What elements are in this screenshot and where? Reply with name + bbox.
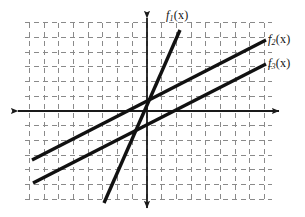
function-label-f2-arg: (x): [276, 32, 291, 46]
function-label-f2-base: f: [268, 32, 272, 46]
function-lines: [32, 30, 266, 203]
graph-canvas: [0, 0, 305, 217]
function-label-f3: f3(x): [268, 57, 290, 69]
function-label-f2: f2(x): [268, 33, 290, 45]
function-label-f2-sub: 2: [272, 38, 276, 47]
function-label-f1-arg: (x): [174, 8, 189, 22]
function-label-f1-sub: 1: [170, 14, 174, 23]
axes: [18, 18, 279, 208]
function-line-2: [32, 40, 266, 160]
function-label-f3-base: f: [268, 56, 272, 70]
function-label-f1: f1(x): [166, 9, 188, 21]
function-label-f3-arg: (x): [276, 56, 291, 70]
linear-functions-figure: f1(x) f2(x) f3(x): [0, 0, 305, 217]
function-label-f3-sub: 3: [272, 62, 276, 71]
function-label-f1-base: f: [166, 8, 170, 22]
function-line-3: [33, 64, 266, 183]
